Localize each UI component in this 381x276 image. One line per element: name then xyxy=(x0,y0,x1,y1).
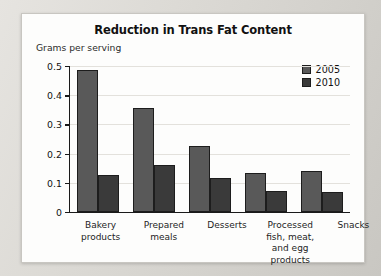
bar-group xyxy=(238,66,294,212)
y-tick-label: 0 xyxy=(56,207,62,218)
bar-2010[interactable] xyxy=(210,178,231,212)
plot-wrapper: 0.50.40.30.20.10 xyxy=(36,58,352,218)
x-axis-category-label-line: and egg products xyxy=(260,243,321,266)
x-axis-category-label-line: Desserts xyxy=(196,220,257,232)
x-axis-category-label-line: Snacks xyxy=(323,220,381,232)
x-axis-category-label-line: fish, meat, xyxy=(260,232,321,244)
x-axis-labels: BakeryproductsPreparedmealsDessertsProce… xyxy=(69,220,381,266)
plot-area: 0.50.40.30.20.10 xyxy=(69,66,350,213)
bar-2010[interactable] xyxy=(98,175,119,212)
y-axis-label: Grams per serving xyxy=(36,42,121,53)
chart-title: Reduction in Trans Fat Content xyxy=(22,23,364,37)
bar-2010[interactable] xyxy=(154,165,175,212)
x-axis-category-label: Bakeryproducts xyxy=(69,220,132,266)
bar-2005[interactable] xyxy=(189,146,210,212)
x-axis-category-label-line: Processed xyxy=(260,220,321,232)
bar-2005[interactable] xyxy=(77,70,98,212)
x-axis-category-label: Preparedmeals xyxy=(132,220,195,266)
y-tick-label: 0.3 xyxy=(47,119,62,130)
bar-2005[interactable] xyxy=(301,171,322,212)
x-axis-category-label-line: Prepared xyxy=(133,220,194,232)
chart-card: Reduction in Trans Fat Content Grams per… xyxy=(21,13,365,263)
bar-group xyxy=(182,66,238,212)
x-axis-category-label: Desserts xyxy=(195,220,258,266)
x-axis-category-label-line: products xyxy=(70,232,131,244)
y-tick-label: 0.1 xyxy=(47,177,62,188)
y-tick-label: 0.5 xyxy=(47,61,62,72)
bar-group xyxy=(70,66,126,212)
bar-2010[interactable] xyxy=(322,192,343,212)
bar-groups xyxy=(70,66,350,212)
x-axis-category-label-line: Bakery xyxy=(70,220,131,232)
x-axis-category-label: Processedfish, meat,and egg products xyxy=(259,220,322,266)
y-tick-label: 0.4 xyxy=(47,90,62,101)
y-tick-label: 0.2 xyxy=(47,148,62,159)
bar-group xyxy=(294,66,350,212)
bar-group xyxy=(126,66,182,212)
x-axis-category-label-line: meals xyxy=(133,232,194,244)
x-axis-category-label: Snacks xyxy=(322,220,381,266)
bar-2005[interactable] xyxy=(245,173,266,212)
y-tick-mark xyxy=(65,212,70,213)
bar-2005[interactable] xyxy=(133,108,154,212)
bar-2010[interactable] xyxy=(266,191,287,212)
